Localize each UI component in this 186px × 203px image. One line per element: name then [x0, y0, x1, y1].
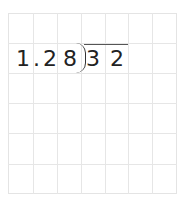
division-overline [84, 44, 128, 45]
grid-line [8, 133, 177, 134]
grid-line [8, 164, 177, 165]
divisor-digit: 2 [43, 46, 57, 72]
grid-line [8, 103, 177, 104]
dividend-digit: 3 [86, 46, 100, 72]
dividend-digit: 2 [110, 46, 124, 72]
grid-line [8, 73, 177, 74]
divisor-decimal-point: . [33, 46, 40, 72]
divisor-digit: 1 [16, 46, 30, 72]
divisor-digit: 8 [63, 46, 77, 72]
